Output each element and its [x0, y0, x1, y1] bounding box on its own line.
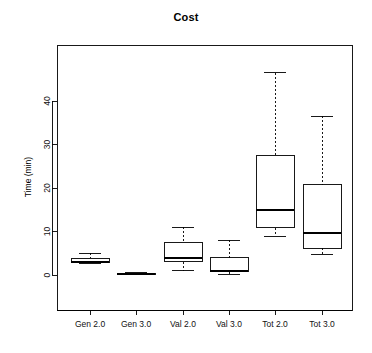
- x-axis-tick-label: Gen 3.0: [121, 319, 152, 329]
- box-plot-item: [71, 253, 109, 263]
- x-axis-tick-label: Val 2.0: [170, 319, 196, 329]
- y-axis-tick-label: 0: [42, 272, 52, 277]
- box-iqr: [303, 185, 341, 249]
- x-axis-tick-label: Val 3.0: [216, 319, 242, 329]
- box-plot-figure: Cost Time (min) 010203040Gen 2.0Gen 3.0V…: [0, 0, 372, 353]
- x-axis-tick-label: Gen 2.0: [75, 319, 106, 329]
- box-iqr: [210, 258, 248, 272]
- y-axis-tick-label: 20: [42, 183, 52, 193]
- x-axis-tick-label: Tot 3.0: [309, 319, 335, 329]
- box-iqr: [164, 243, 202, 262]
- box-plot-item: [164, 227, 202, 271]
- plot-frame: [57, 45, 352, 310]
- box-iqr: [256, 155, 294, 227]
- box-plot-item: [117, 273, 155, 275]
- y-axis-tick-label: 10: [42, 227, 52, 237]
- plot-canvas: 010203040Gen 2.0Gen 3.0Val 2.0Val 3.0Tot…: [0, 0, 372, 353]
- box-plot-item: [303, 116, 341, 255]
- y-axis-tick-label: 30: [42, 140, 52, 150]
- x-axis-tick-label: Tot 2.0: [262, 319, 288, 329]
- box-plot-item: [210, 240, 248, 274]
- y-axis-tick-label: 40: [42, 96, 52, 106]
- box-plot-item: [256, 73, 294, 237]
